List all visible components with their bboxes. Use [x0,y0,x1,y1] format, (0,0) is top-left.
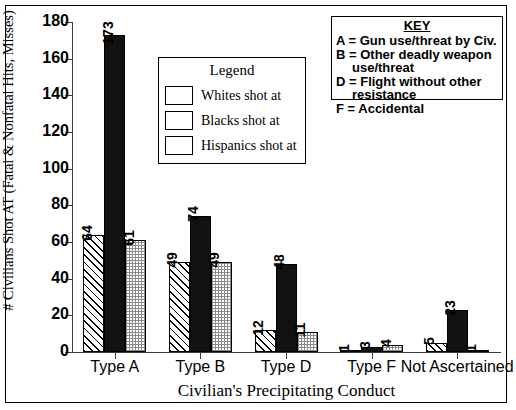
key-box: KEY A = Gun use/threat by Civ. B = Other… [331,16,503,100]
y-axis-title: # Civilians Shot AT (Fatal & Nonfatal Hi… [0,0,17,410]
y-tick-label: 80 [51,196,69,212]
y-tick-label: 0 [60,343,69,359]
y-tick-label: 100 [42,160,69,176]
legend-box: Legend Whites shot at Blacks shot at His… [158,57,306,164]
key-line-b: B = Other deadly weapon [336,48,498,62]
legend-label-whites: Whites shot at [201,88,281,104]
bar: 4 [382,345,403,352]
bar-value-label: 1 [464,344,478,352]
bar-value-label: 1 [337,344,351,352]
bar: 49 [169,262,190,352]
key-line-d: D = Flight without other [336,75,498,89]
bar: 1 [340,350,361,352]
y-tick-label: 20 [51,306,69,322]
bar-value-label: 64 [80,225,94,241]
legend-title: Legend [159,62,305,79]
bar: 49 [211,262,232,352]
bar-value-label: 74 [186,207,200,223]
bar: 48 [276,264,297,352]
legend-label-blacks: Blacks shot at [201,113,280,129]
bar-value-label: 5 [422,337,436,345]
y-tick-label: 60 [51,233,69,249]
bar-value-label: 23 [443,300,457,316]
bar: 61 [125,240,146,352]
x-category-label: Type D [261,358,312,376]
bar-value-label: 11 [293,322,307,337]
y-tick-label: 120 [42,123,69,139]
key-line-d-cont: resistance [336,88,498,102]
y-tick-label: 40 [51,270,69,286]
bar-value-label: 3 [358,341,372,349]
bar: 11 [297,332,318,352]
x-category-label: Type B [175,358,225,376]
bar: 173 [104,35,125,352]
legend-item-whites: Whites shot at [159,83,305,108]
bar-value-label: 49 [207,252,221,268]
x-axis-title: Civilian's Precipitating Conduct [72,381,501,401]
bar: 5 [426,343,447,352]
bar-value-label: 12 [251,320,265,336]
legend-swatch-hispanics [165,136,193,155]
key-title: KEY [336,19,498,33]
x-category-label: Not Ascertained [401,358,514,376]
y-tick-label: 180 [42,13,69,29]
key-line-f: F = Accidental [336,102,498,116]
legend-label-hispanics: Hispanics shot at [201,138,297,154]
y-tick-label: 160 [42,50,69,66]
x-category-label: Type A [90,358,139,376]
legend-item-blacks: Blacks shot at [159,108,305,133]
legend-item-hispanics: Hispanics shot at [159,133,305,158]
bar: 3 [361,347,382,353]
bar-value-label: 173 [101,21,115,44]
y-tick-label: 140 [42,86,69,102]
bar-value-label: 61 [122,230,136,246]
bar: 74 [190,216,211,352]
chart-figure: # Civilians Shot AT (Fatal & Nonfatal Hi… [0,0,516,410]
key-line-b-cont: use/threat [336,61,498,75]
legend-swatch-blacks [165,111,193,130]
bar: 1 [468,350,489,352]
legend-swatch-whites [165,86,193,105]
bar-group: 6417361 [83,22,146,352]
key-line-a: A = Gun use/threat by Civ. [336,34,498,48]
x-category-label: Type F [347,358,396,376]
bar-value-label: 48 [272,254,286,270]
bar-value-label: 49 [165,252,179,268]
bar-value-label: 4 [379,339,393,347]
bar: 64 [83,235,104,352]
bar: 12 [255,330,276,352]
